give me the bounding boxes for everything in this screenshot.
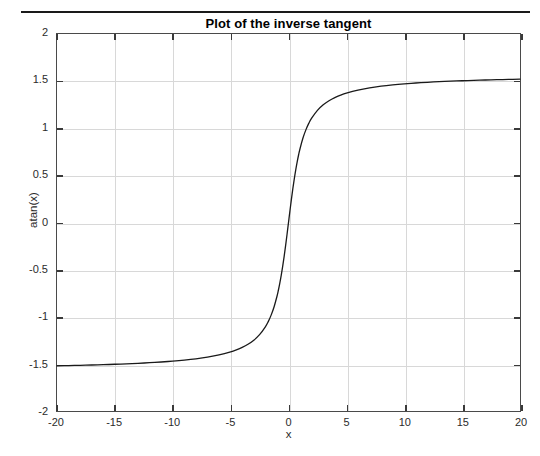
x-tick-label: -20 (31, 416, 81, 428)
y-axis-title: atan(x) (27, 180, 39, 240)
axis-tick-mark (521, 405, 523, 411)
y-tick-label: 0 (0, 216, 48, 228)
x-tick-label: -5 (205, 416, 255, 428)
x-tick-label: 10 (380, 416, 430, 428)
y-tick-label: 2 (0, 26, 48, 38)
chart-title: Plot of the inverse tangent (56, 16, 521, 31)
curve-svg (57, 34, 520, 411)
x-tick-label: 0 (264, 416, 314, 428)
y-tick-label: -1 (0, 310, 48, 322)
x-tick-label: 5 (322, 416, 372, 428)
plot-inner (57, 34, 520, 411)
y-tick-label: -0.5 (0, 263, 48, 275)
y-tick-label: -1.5 (0, 358, 48, 370)
x-tick-label: 20 (496, 416, 540, 428)
y-tick-label: 1.5 (0, 73, 48, 85)
series-line-atan (57, 79, 520, 366)
y-tick-label: 1 (0, 121, 48, 133)
header-divider-rule (21, 11, 530, 13)
plot-area (56, 33, 521, 412)
x-axis-title: x (56, 428, 521, 440)
x-tick-label: -15 (89, 416, 139, 428)
axis-tick-mark (521, 34, 523, 40)
x-tick-label: -10 (147, 416, 197, 428)
x-tick-label: 15 (438, 416, 488, 428)
y-tick-label: 0.5 (0, 168, 48, 180)
figure-canvas: Plot of the inverse tangent 21.510.50-0.… (0, 0, 540, 456)
